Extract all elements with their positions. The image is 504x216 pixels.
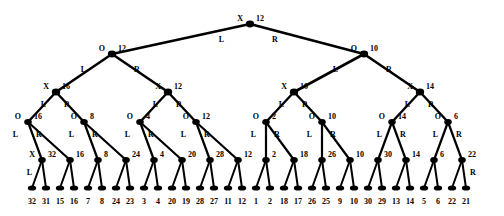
tree-edge-right xyxy=(70,160,74,188)
node-value-label: 28 xyxy=(216,151,224,159)
tree-node-depth-2 xyxy=(416,89,424,96)
node-value-label: 14 xyxy=(412,151,420,159)
tree-edge-left xyxy=(256,160,266,188)
tree-edge-right xyxy=(294,160,298,188)
node-operator-label: O xyxy=(183,113,189,121)
leaf-node xyxy=(420,185,428,190)
node-operator-label: X xyxy=(43,83,49,91)
leaf-value-label: 21 xyxy=(462,198,470,206)
edge-label-left: L xyxy=(13,131,18,139)
tree-node-depth-4 xyxy=(374,157,382,163)
edge-label-left: L xyxy=(181,131,186,139)
node-value-label: 26 xyxy=(328,151,336,159)
tree-edge-right xyxy=(266,160,270,188)
tree-edge-left xyxy=(200,160,210,188)
tree-edge-right xyxy=(392,122,406,160)
node-value-label: 30 xyxy=(384,151,392,159)
tree-edge-left xyxy=(396,160,406,188)
leaf-value-label: 20 xyxy=(168,198,176,206)
leaf-node xyxy=(406,185,414,190)
leaf-value-label: 11 xyxy=(224,198,232,206)
tree-edge-right xyxy=(250,24,364,54)
node-operator-label: O xyxy=(71,113,77,121)
leaf-node xyxy=(336,185,344,190)
node-value-label: 10 xyxy=(328,113,336,121)
leaf-value-label: 22 xyxy=(448,198,456,206)
node-operator-label: O xyxy=(99,45,105,53)
edge-label-left: L xyxy=(279,101,284,109)
leaf-node xyxy=(182,185,190,190)
leaf-node xyxy=(462,185,470,190)
leaf-value-label: 14 xyxy=(406,198,414,206)
leaf-node xyxy=(350,185,358,190)
tree-node-depth-4 xyxy=(150,157,158,163)
edge-label-left: L xyxy=(333,66,338,74)
tree-node-depth-4 xyxy=(402,157,410,163)
edge-label-right: R xyxy=(36,131,42,139)
node-value-label: 2 xyxy=(272,113,276,121)
tree-node-depth-4 xyxy=(458,157,466,163)
tree-node-depth-4 xyxy=(66,157,74,163)
node-value-label: 32 xyxy=(48,151,56,159)
tree-edge-right xyxy=(210,160,214,188)
binary-tree-diagram: 12XLR12OLR10OLR16XLR12XLR10XLR14XLR16OLR… xyxy=(0,0,504,216)
leaf-node xyxy=(28,185,36,190)
leaf-value-label: 10 xyxy=(350,198,358,206)
tree-edge-left xyxy=(452,160,462,188)
tree-edge-right xyxy=(182,160,186,188)
node-operator-label: X xyxy=(237,15,243,23)
tree-edge-right xyxy=(238,160,242,188)
node-operator-label: O xyxy=(379,113,385,121)
leaf-value-label: 19 xyxy=(182,198,190,206)
tree-node-depth-2 xyxy=(164,89,172,96)
leaf-value-label: 7 xyxy=(86,198,90,206)
tree-node-depth-0 xyxy=(246,21,254,28)
tree-node-depth-1 xyxy=(360,51,368,58)
node-value-label: 10 xyxy=(300,83,308,91)
tree-node-depth-1 xyxy=(108,51,116,58)
leaf-node xyxy=(112,185,120,190)
edge-label-left: L xyxy=(405,101,410,109)
node-value-label: 4 xyxy=(146,113,150,121)
leaf-node xyxy=(56,185,64,190)
leaf-value-label: 6 xyxy=(436,198,440,206)
edge-label-right: R xyxy=(92,131,98,139)
leaf-value-label: 23 xyxy=(126,198,134,206)
node-value-label: 12 xyxy=(174,83,182,91)
tree-node-depth-4 xyxy=(94,157,102,163)
edge-label-right: R xyxy=(176,101,182,109)
node-value-label: 16 xyxy=(62,83,70,91)
leaf-value-label: 32 xyxy=(28,198,36,206)
node-value-label: 14 xyxy=(426,83,434,91)
edge-label-right: R xyxy=(64,101,70,109)
edge-label-right: R xyxy=(204,131,210,139)
node-value-label: 4 xyxy=(160,151,164,159)
node-value-label: 16 xyxy=(34,113,42,121)
edge-label-left: L xyxy=(377,131,382,139)
edge-label-left: L xyxy=(153,101,158,109)
tree-node-depth-4 xyxy=(290,157,298,163)
tree-node-depth-3 xyxy=(192,119,200,125)
edge-label-right: R xyxy=(386,66,392,74)
tree-node-depth-3 xyxy=(388,119,396,125)
tree-edge-right xyxy=(350,160,354,188)
edge-label-right: R xyxy=(272,36,278,44)
tree-node-depth-3 xyxy=(318,119,326,125)
node-value-label: 12 xyxy=(256,15,264,23)
leaf-value-label: 9 xyxy=(338,198,342,206)
tree-edge-right xyxy=(98,160,102,188)
node-operator-label: O xyxy=(15,113,21,121)
edge-label-right: R xyxy=(428,101,434,109)
tree-edge-left xyxy=(368,160,378,188)
node-value-label: 6 xyxy=(454,113,458,121)
tree-node-depth-4 xyxy=(430,157,438,163)
node-value-label: 10 xyxy=(370,45,378,53)
tree-edge-left xyxy=(60,160,70,188)
tree-edge-right xyxy=(266,122,294,160)
tree-edge-right xyxy=(406,160,410,188)
tree-edge-right xyxy=(378,160,382,188)
leaf-value-label: 15 xyxy=(56,198,64,206)
tree-edge-right xyxy=(126,160,130,188)
tree-edge-right xyxy=(434,160,438,188)
leaf-value-label: 31 xyxy=(42,198,50,206)
